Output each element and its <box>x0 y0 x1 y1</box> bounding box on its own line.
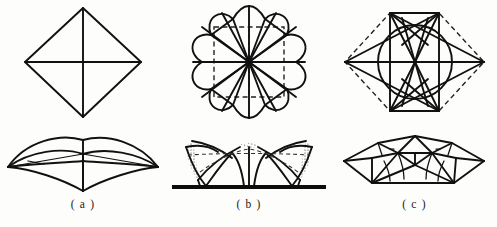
rosette-plan-diagram <box>166 0 332 125</box>
hexagon-star-plan-diagram <box>332 0 497 125</box>
figure-sheet: ( a ) <box>0 0 497 227</box>
caption-a: ( a ) <box>0 198 166 210</box>
caption-b: ( b ) <box>166 198 332 210</box>
faceted-tent-elevation-diagram <box>332 125 497 197</box>
tent-lower-facets <box>372 153 456 183</box>
saddle-elevation-diagram <box>0 125 166 197</box>
square-plan-diagram <box>0 0 166 125</box>
figure-column-c: ( c ) <box>332 0 497 227</box>
figure-column-b: ( b ) <box>166 0 332 227</box>
diamond-diagonals <box>25 8 141 117</box>
membrane-elevation-diagram <box>166 125 332 197</box>
caption-c: ( c ) <box>332 198 497 210</box>
figure-column-a: ( a ) <box>0 0 166 227</box>
